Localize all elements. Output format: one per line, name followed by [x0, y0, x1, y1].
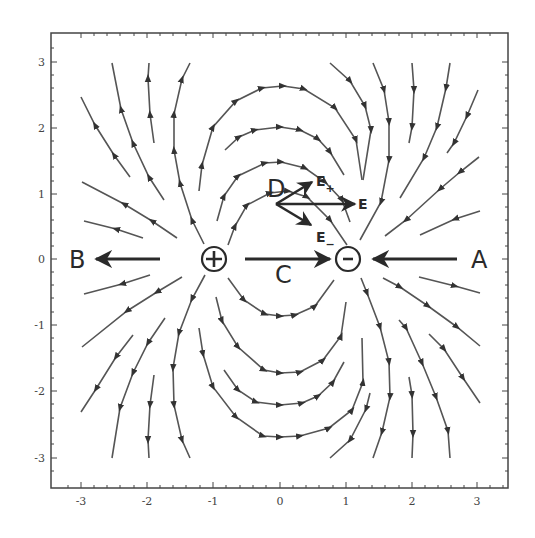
label-b: B [69, 246, 85, 274]
label-c: C [275, 261, 292, 289]
x-tick-label: 3 [474, 495, 481, 508]
label-d: D [267, 175, 285, 203]
x-tick-label: -2 [142, 495, 153, 508]
x-tick-label: 1 [343, 495, 350, 508]
y-tick-label: 3 [38, 56, 45, 69]
x-tick-label: 2 [409, 495, 416, 508]
y-tick-label: 2 [38, 122, 45, 135]
dipole-field-diagram: -3 -2 -1 0 1 2 3 3 2 1 0 -1 -2 -3 [0, 0, 535, 538]
negative-charge [336, 247, 360, 271]
y-tick-label: 0 [38, 253, 45, 266]
x-tick-label: -1 [208, 495, 219, 508]
y-tick-label: -3 [34, 452, 45, 465]
x-tick-label: 0 [277, 495, 284, 508]
y-tick-labels: 3 2 1 0 -1 -2 -3 [34, 56, 45, 465]
y-tick-label: -2 [34, 385, 45, 398]
label-e-minus: E− [316, 229, 335, 251]
y-tick-label: 1 [38, 188, 45, 201]
x-tick-labels: -3 -2 -1 0 1 2 3 [76, 495, 481, 508]
y-tick-label: -1 [34, 319, 45, 332]
x-tick-label: -3 [76, 495, 87, 508]
label-e-plus: E+ [316, 173, 335, 195]
label-a: A [471, 246, 488, 274]
label-e-total: E [358, 196, 368, 212]
positive-charge [202, 247, 226, 271]
vector-e-minus [276, 204, 311, 225]
